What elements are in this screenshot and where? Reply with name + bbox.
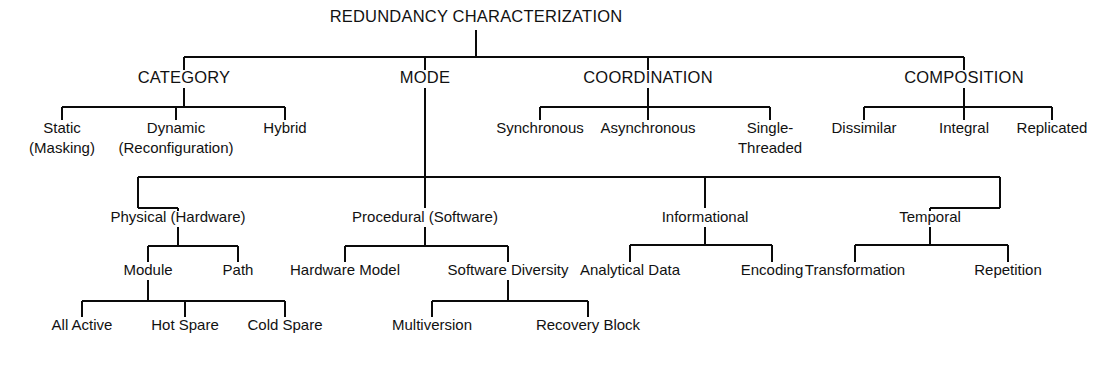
node-repetition: Repetition xyxy=(974,261,1042,278)
node-transformation: Transformation xyxy=(805,261,905,278)
module-connectors xyxy=(82,280,285,317)
node-physical: Physical (Hardware) xyxy=(110,208,245,225)
physical-connectors xyxy=(148,227,238,262)
composition-connectors xyxy=(864,88,1052,120)
node-root: REDUNDANCY CHARACTERIZATION xyxy=(330,7,623,25)
node-composition: COMPOSITION xyxy=(904,68,1024,86)
coordination-connectors xyxy=(540,88,770,120)
node-encoding: Encoding xyxy=(741,261,804,278)
software-diversity-connectors xyxy=(432,280,588,317)
node-mode: MODE xyxy=(400,68,450,86)
redundancy-characterization-diagram: REDUNDANCY CHARACTERIZATION CATEGORY MOD… xyxy=(0,0,1114,365)
node-integral: Integral xyxy=(939,119,989,136)
node-asynchronous: Asynchronous xyxy=(600,119,695,136)
node-static-line2: (Masking) xyxy=(29,139,95,156)
node-replicated: Replicated xyxy=(1017,119,1088,136)
node-category: CATEGORY xyxy=(138,68,231,86)
node-cold-spare: Cold Spare xyxy=(247,316,322,333)
node-multiversion: Multiversion xyxy=(392,316,472,333)
node-hardware-model: Hardware Model xyxy=(290,261,400,278)
node-module: Module xyxy=(123,261,172,278)
node-single-threaded-line2: Threaded xyxy=(738,139,802,156)
node-dissimilar: Dissimilar xyxy=(832,119,897,136)
node-coordination: COORDINATION xyxy=(583,68,713,86)
procedural-connectors xyxy=(345,227,508,262)
tree-connector-canvas: REDUNDANCY CHARACTERIZATION CATEGORY MOD… xyxy=(0,0,1114,365)
node-dynamic-line2: (Reconfiguration) xyxy=(118,139,233,156)
node-analytical-data: Analytical Data xyxy=(580,261,681,278)
node-recovery-block: Recovery Block xyxy=(536,316,641,333)
node-static-line1: Static xyxy=(43,119,81,136)
node-path: Path xyxy=(223,261,254,278)
node-all-active: All Active xyxy=(52,316,113,333)
informational-connectors xyxy=(630,227,772,262)
node-temporal: Temporal xyxy=(899,208,961,225)
node-procedural: Procedural (Software) xyxy=(352,208,498,225)
node-hybrid-line1: Hybrid xyxy=(263,119,306,136)
node-single-threaded-line1: Single- xyxy=(747,119,794,136)
node-hot-spare: Hot Spare xyxy=(151,316,219,333)
node-informational: Informational xyxy=(662,208,749,225)
node-dynamic-line1: Dynamic xyxy=(147,119,206,136)
temporal-connectors xyxy=(855,227,1008,262)
root-connectors xyxy=(184,30,964,70)
node-synchronous: Synchronous xyxy=(496,119,584,136)
node-software-diversity: Software Diversity xyxy=(448,261,569,278)
category-connectors xyxy=(62,88,285,120)
